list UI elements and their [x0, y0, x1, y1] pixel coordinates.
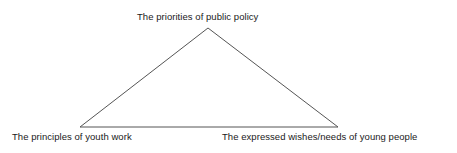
diagram-canvas: The priorities of public policy The prin…: [0, 0, 457, 153]
triangle-outline: [80, 28, 338, 127]
apex-label: The priorities of public policy: [137, 11, 258, 23]
bottom-right-label: The expressed wishes/needs of young peop…: [222, 131, 417, 143]
bottom-left-label: The principles of youth work: [12, 131, 132, 143]
